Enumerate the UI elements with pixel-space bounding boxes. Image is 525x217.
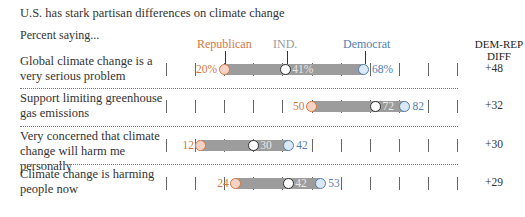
republican-dot	[230, 178, 241, 189]
republican-dot	[219, 64, 230, 75]
axis-tick	[399, 139, 400, 152]
axis-tick	[399, 177, 400, 190]
axis-tick	[195, 100, 196, 113]
axis-tick	[370, 139, 371, 152]
chart-title: U.S. has stark partisan differences on c…	[20, 6, 285, 21]
democrat-dot	[283, 140, 294, 151]
dem-rep-diff: +29	[485, 176, 503, 188]
republican-dot	[306, 101, 317, 112]
dem-rep-diff: +48	[485, 62, 503, 74]
dem-rep-diff: +32	[485, 99, 503, 111]
axis-tick	[282, 100, 283, 113]
democrat-value: 68%	[372, 63, 393, 76]
republican-value: 24	[217, 177, 229, 190]
axis-tick	[341, 177, 342, 190]
row-label: Global climate change is a very serious …	[20, 54, 170, 84]
axis-tick	[166, 100, 167, 113]
independent-value: 41%	[292, 63, 313, 76]
diff-header-line1: DEM-REP	[474, 38, 524, 50]
independent-dot	[370, 101, 381, 112]
democrat-dot	[358, 64, 369, 75]
row-separator	[20, 126, 458, 127]
axis-tick	[428, 177, 429, 190]
democrat-value: 82	[413, 100, 425, 113]
legend-republican: Republican	[197, 37, 252, 52]
axis-tick	[428, 63, 429, 76]
axis-tick	[399, 63, 400, 76]
democrat-dot	[399, 101, 410, 112]
independent-dot	[248, 140, 259, 151]
independent-dot	[283, 178, 294, 189]
axis-tick	[370, 63, 371, 76]
dem-rep-diff: +30	[485, 138, 503, 150]
row-label: Support limiting greenhouse gas emission…	[20, 91, 170, 121]
legend-independent: IND.	[273, 37, 297, 52]
independent-value: 30	[260, 139, 272, 152]
diff-column-header: DEM-REP DIFF	[474, 38, 524, 62]
row-separator	[20, 164, 458, 165]
axis-tick	[428, 139, 429, 152]
axis-tick	[457, 100, 458, 113]
republican-value: 12	[182, 139, 194, 152]
range-bar	[236, 178, 320, 189]
axis-tick	[166, 63, 167, 76]
axis-tick	[457, 63, 458, 76]
independent-value: 42	[295, 177, 307, 190]
legend-democrat: Democrat	[343, 37, 390, 52]
axis-tick	[428, 100, 429, 113]
democrat-value: 42	[296, 139, 308, 152]
row-separator	[20, 88, 458, 89]
independent-dot	[280, 64, 291, 75]
legend-pointer-democrat	[365, 51, 366, 64]
axis-tick	[166, 139, 167, 152]
axis-tick	[224, 100, 225, 113]
diff-header-line2: DIFF	[474, 50, 524, 62]
row-label: Climate change is harming people now	[20, 167, 170, 197]
legend-pointer-independent	[287, 51, 288, 64]
range-bar	[201, 140, 288, 151]
axis-tick	[457, 177, 458, 190]
axis-tick	[312, 139, 313, 152]
axis-tick	[341, 139, 342, 152]
independent-value: 72	[383, 100, 395, 113]
chart-subtitle: Percent saying...	[20, 28, 99, 43]
democrat-dot	[315, 178, 326, 189]
axis-tick	[370, 177, 371, 190]
republican-dot	[195, 140, 206, 151]
republican-value: 20%	[196, 63, 217, 76]
axis-tick	[457, 139, 458, 152]
axis-tick	[166, 177, 167, 190]
republican-value: 50	[293, 100, 305, 113]
axis-tick	[253, 100, 254, 113]
axis-tick	[195, 177, 196, 190]
democrat-value: 53	[328, 177, 340, 190]
